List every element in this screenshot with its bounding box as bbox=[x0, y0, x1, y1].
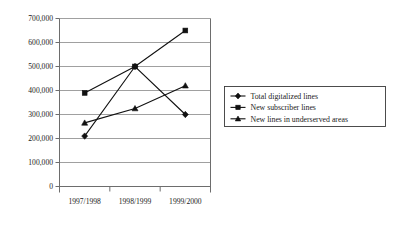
series-2 bbox=[82, 83, 189, 126]
y-axis-tick-labels: 0100,000200,000300,000400,000500,000600,… bbox=[28, 14, 53, 191]
y-axis-tick-label: 500,000 bbox=[28, 62, 53, 71]
series-line bbox=[85, 67, 186, 137]
data-series-group bbox=[82, 28, 189, 139]
chart-legend: Total digitalized linesNew subscriber li… bbox=[225, 87, 386, 127]
series-1 bbox=[82, 28, 187, 95]
x-axis-category-labels: 1997/19981998/19991999/2000 bbox=[68, 197, 201, 206]
y-axis-tick-label: 700,000 bbox=[28, 14, 53, 23]
x-axis-category-label: 1997/1998 bbox=[68, 197, 101, 206]
line-chart: 0100,000200,000300,000400,000500,000600,… bbox=[0, 0, 393, 234]
y-axis-tick-label: 0 bbox=[49, 182, 53, 191]
data-point-square-marker bbox=[133, 64, 138, 69]
series-0 bbox=[82, 63, 189, 139]
chart-canvas: 0100,000200,000300,000400,000500,000600,… bbox=[0, 0, 393, 234]
x-axis-tick-marks bbox=[110, 187, 160, 192]
x-axis-category-label: 1998/1999 bbox=[119, 197, 152, 206]
legend-item-label: New lines in underserved areas bbox=[251, 115, 348, 124]
data-point-square-marker bbox=[183, 28, 188, 33]
legend-item-label: Total digitalized lines bbox=[251, 92, 318, 101]
data-point-square-marker bbox=[236, 105, 240, 109]
data-point-square-marker bbox=[82, 91, 87, 96]
y-axis-tick-label: 600,000 bbox=[28, 38, 53, 47]
series-line bbox=[85, 31, 186, 93]
y-axis-tick-label: 200,000 bbox=[28, 134, 53, 143]
legend-item-label: New subscriber lines bbox=[251, 103, 316, 112]
data-point-triangle-marker bbox=[182, 83, 188, 88]
y-axis-tick-label: 300,000 bbox=[28, 110, 53, 119]
y-axis-tick-label: 100,000 bbox=[28, 158, 53, 167]
series-line bbox=[85, 86, 186, 123]
gridlines-group bbox=[56, 19, 211, 187]
x-axis-category-label: 1999/2000 bbox=[169, 197, 202, 206]
y-axis-tick-label: 400,000 bbox=[28, 86, 53, 95]
